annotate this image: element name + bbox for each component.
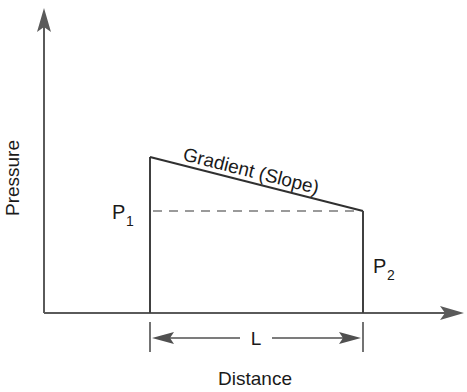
p1-label-subscript: 1 <box>126 213 134 229</box>
p1-label-main: P <box>112 201 125 223</box>
p2-label-subscript: 2 <box>387 267 395 283</box>
length-label: L <box>251 328 262 349</box>
y-axis-label: Pressure <box>2 140 23 216</box>
x-axis-label: Distance <box>218 368 292 389</box>
p2-label-main: P <box>373 255 386 277</box>
pressure-gradient-diagram: L Distance Pressure Gradient (Slope) P 1… <box>0 0 467 392</box>
p1-label: P 1 <box>112 201 134 229</box>
p2-label: P 2 <box>373 255 395 283</box>
